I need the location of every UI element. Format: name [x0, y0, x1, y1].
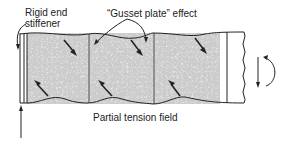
girder-diagram	[0, 0, 291, 145]
break-line	[243, 32, 245, 103]
top-flange	[20, 32, 244, 38]
tension-field-band-2	[90, 33, 160, 104]
callout-gusset-2	[127, 19, 146, 40]
tension-field-band-3	[155, 33, 225, 104]
moment-arrow	[265, 58, 275, 86]
